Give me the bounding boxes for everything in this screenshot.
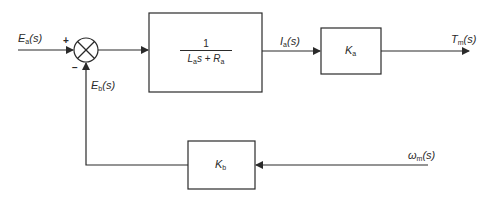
transfer-function: 1 Las + Ra xyxy=(180,38,232,67)
feedback-input-label: ωm(s) xyxy=(408,150,435,162)
transfer-function-numerator: 1 xyxy=(180,38,232,49)
input-label: Ea(s) xyxy=(18,33,42,45)
intermediate-signal-label: Ia(s) xyxy=(280,36,300,48)
feedback-signal-label: Eb(s) xyxy=(91,80,115,92)
diagram-canvas xyxy=(0,0,491,198)
minus-sign: − xyxy=(72,63,78,73)
fraction-bar xyxy=(180,50,232,51)
feedback-gain-label: Kb xyxy=(215,159,226,171)
forward-gain-label: Ka xyxy=(345,45,356,57)
summing-junction xyxy=(74,38,98,62)
plus-sign: + xyxy=(63,36,69,46)
output-label: Tm(s) xyxy=(451,34,476,46)
block-diagram: Ea(s) + − Eb(s) 1 Las + Ra Ia(s) Ka Tm(s… xyxy=(0,0,491,198)
transfer-function-denominator: Las + Ra xyxy=(180,53,232,67)
